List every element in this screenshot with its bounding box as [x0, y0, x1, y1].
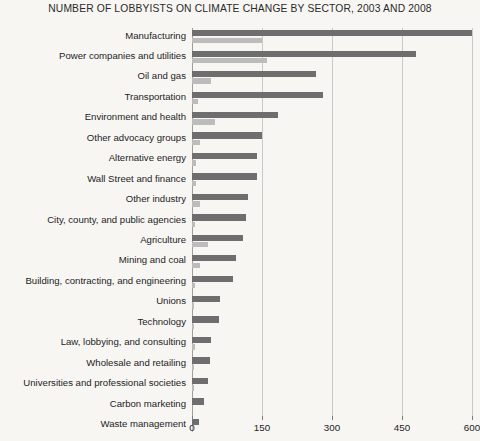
bar-2008[interactable]: [192, 132, 262, 138]
bar-2008[interactable]: [192, 296, 220, 302]
category-label: Unions: [0, 295, 186, 306]
bar-2008[interactable]: [192, 194, 248, 200]
category-label: Environment and health: [0, 111, 186, 122]
x-tick-mark: [472, 416, 473, 420]
bar-group[interactable]: [192, 89, 472, 109]
x-tick-mark: [192, 416, 193, 420]
bar-group[interactable]: [192, 253, 472, 273]
x-tick-mark: [262, 416, 263, 420]
bar-2008[interactable]: [192, 30, 472, 36]
category-label: Power companies and utilities: [0, 50, 186, 61]
plot-area: [192, 28, 472, 416]
bar-group[interactable]: [192, 171, 472, 191]
bar-2003[interactable]: [192, 242, 208, 247]
bar-2008[interactable]: [192, 173, 257, 179]
category-label: Alternative energy: [0, 152, 186, 163]
bar-2003[interactable]: [192, 324, 194, 329]
bar-group[interactable]: [192, 69, 472, 89]
category-label: Universities and professional societies: [0, 377, 186, 388]
bar-group[interactable]: [192, 273, 472, 293]
bar-2003[interactable]: [192, 385, 194, 390]
bar-group[interactable]: [192, 335, 472, 355]
bar-2008[interactable]: [192, 214, 246, 220]
bar-group[interactable]: [192, 314, 472, 334]
bar-group[interactable]: [192, 233, 472, 253]
category-label: Manufacturing: [0, 30, 186, 41]
category-label: Law, lobbying, and consulting: [0, 336, 186, 347]
bar-2003[interactable]: [192, 99, 198, 104]
category-label: Transportation: [0, 91, 186, 102]
bar-2008[interactable]: [192, 337, 211, 343]
bar-2003[interactable]: [192, 283, 195, 288]
category-axis-labels: ManufacturingPower companies and utiliti…: [0, 28, 186, 416]
x-tick-mark: [332, 416, 333, 420]
bar-group[interactable]: [192, 192, 472, 212]
bar-2003[interactable]: [192, 365, 194, 370]
category-label: Wholesale and retailing: [0, 357, 186, 368]
bar-group[interactable]: [192, 294, 472, 314]
bar-group[interactable]: [192, 130, 472, 150]
category-label: Oil and gas: [0, 70, 186, 81]
bar-2008[interactable]: [192, 316, 219, 322]
category-label: Other advocacy groups: [0, 132, 186, 143]
category-label: Mining and coal: [0, 254, 186, 265]
bar-2003[interactable]: [192, 263, 200, 268]
bar-2003[interactable]: [192, 160, 196, 165]
x-tick-label: 0: [189, 422, 194, 433]
bar-2008[interactable]: [192, 398, 204, 404]
bar-2008[interactable]: [192, 378, 208, 384]
x-tick-label: 300: [324, 422, 340, 433]
bar-2003[interactable]: [192, 344, 195, 349]
bar-2003[interactable]: [192, 140, 200, 145]
bar-group[interactable]: [192, 396, 472, 416]
x-tick-mark: [402, 416, 403, 420]
bar-2003[interactable]: [192, 58, 267, 63]
bar-group[interactable]: [192, 212, 472, 232]
category-label: Other industry: [0, 193, 186, 204]
x-tick-label: 450: [394, 422, 410, 433]
bar-2008[interactable]: [192, 255, 236, 261]
x-tick-label: 150: [254, 422, 270, 433]
bar-2003[interactable]: [192, 78, 211, 83]
chart-title: NUMBER OF LOBBYISTS ON CLIMATE CHANGE BY…: [0, 3, 480, 14]
bar-2008[interactable]: [192, 112, 278, 118]
category-label: Agriculture: [0, 234, 186, 245]
category-label: City, county, and public agencies: [0, 214, 186, 225]
category-label: Building, contracting, and engineering: [0, 275, 186, 286]
gridline-600: [472, 28, 473, 416]
bars-layer: [192, 28, 472, 416]
x-axis: 0150300450600: [192, 416, 472, 441]
bar-2008[interactable]: [192, 153, 257, 159]
bar-2003[interactable]: [192, 119, 215, 124]
chart-figure: NUMBER OF LOBBYISTS ON CLIMATE CHANGE BY…: [0, 0, 480, 441]
bar-2008[interactable]: [192, 92, 323, 98]
bar-2008[interactable]: [192, 71, 316, 77]
bar-2008[interactable]: [192, 357, 210, 363]
bar-2003[interactable]: [192, 181, 196, 186]
bar-2003[interactable]: [192, 201, 200, 206]
bar-2003[interactable]: [192, 222, 195, 227]
bar-group[interactable]: [192, 376, 472, 396]
bar-group[interactable]: [192, 48, 472, 68]
bar-group[interactable]: [192, 355, 472, 375]
bar-2008[interactable]: [192, 276, 233, 282]
bar-group[interactable]: [192, 28, 472, 48]
bar-2003[interactable]: [192, 303, 194, 308]
bar-group[interactable]: [192, 110, 472, 130]
category-label: Carbon marketing: [0, 398, 186, 409]
x-tick-label: 600: [464, 422, 480, 433]
category-label: Waste management: [0, 418, 186, 429]
bar-2008[interactable]: [192, 235, 243, 241]
category-label: Wall Street and finance: [0, 173, 186, 184]
bar-group[interactable]: [192, 151, 472, 171]
bar-2008[interactable]: [192, 51, 416, 57]
category-label: Technology: [0, 316, 186, 327]
bar-2003[interactable]: [192, 38, 262, 43]
